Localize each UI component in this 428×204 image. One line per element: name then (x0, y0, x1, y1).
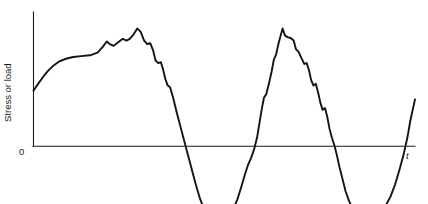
stress-history-curve (34, 28, 416, 204)
y-axis-zero-tick-label: 0 (19, 147, 24, 157)
y-axis-label: Stress or load (3, 108, 13, 122)
chart-plot-area (0, 0, 428, 204)
stress-vs-time-chart: Stress or load 0 t (0, 0, 428, 204)
x-axis-label: t (406, 151, 409, 161)
